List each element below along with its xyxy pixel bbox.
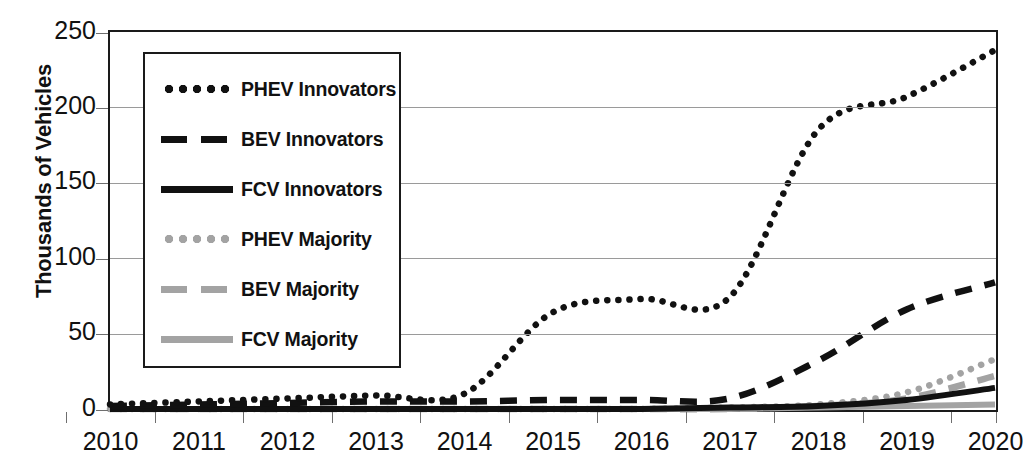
x-tick-label-2014: 2014	[437, 427, 493, 456]
legend-item-fcv-majority[interactable]: FCV Majority	[145, 314, 399, 364]
chart-legend: PHEV InnovatorsBEV InnovatorsFCV Innovat…	[143, 52, 401, 368]
legend-swatch-solid-dark-icon	[161, 182, 233, 196]
x-tick-mark-6	[597, 412, 598, 423]
legend-swatch-dotted-dark-icon	[161, 82, 233, 96]
x-tick-mark-1	[155, 412, 156, 423]
legend-swatch-solid-gray-icon	[161, 332, 233, 346]
y-tick-label-0: 0	[18, 395, 96, 420]
y-tick-mark-150	[96, 183, 108, 184]
x-tick-mark-9	[863, 412, 864, 423]
legend-label: FCV Majority	[241, 328, 358, 351]
x-tick-mark-8	[774, 412, 775, 423]
x-tick-mark-4	[420, 412, 421, 423]
y-axis-tick-labels: 250200150100500	[14, 0, 96, 472]
x-tick-label-2010: 2010	[83, 427, 139, 456]
legend-item-phev-majority[interactable]: PHEV Majority	[145, 214, 399, 264]
y-tick-mark-0	[96, 410, 108, 411]
y-tick-label-250: 250	[18, 18, 96, 43]
legend-swatch-dashed-gray-icon	[161, 282, 233, 296]
legend-item-bev-majority[interactable]: BEV Majority	[145, 264, 399, 314]
y-tick-mark-50	[96, 334, 108, 335]
legend-label: PHEV Innovators	[241, 78, 396, 101]
y-tick-mark-250	[96, 33, 108, 34]
legend-label: PHEV Majority	[241, 228, 372, 251]
x-tick-label-2020: 2020	[968, 427, 1023, 456]
x-tick-label-2013: 2013	[348, 427, 404, 456]
x-tick-mark-end	[996, 412, 997, 423]
x-tick-mark-2	[243, 412, 244, 423]
y-tick-mark-100	[96, 259, 108, 260]
legend-swatch-dotted-gray-icon	[161, 232, 233, 246]
legend-label: FCV Innovators	[241, 178, 382, 201]
x-tick-mark-0	[66, 412, 67, 423]
x-tick-mark-7	[686, 412, 687, 423]
y-tick-label-50: 50	[18, 319, 96, 344]
legend-swatch-dashed-dark-icon	[161, 132, 233, 146]
legend-label: BEV Innovators	[241, 128, 383, 151]
x-tick-label-2017: 2017	[702, 427, 758, 456]
x-tick-label-2011: 2011	[172, 427, 226, 456]
y-tick-label-150: 150	[18, 168, 96, 193]
legend-item-fcv-innovators[interactable]: FCV Innovators	[145, 164, 399, 214]
legend-item-bev-innovators[interactable]: BEV Innovators	[145, 114, 399, 164]
x-tick-label-2012: 2012	[260, 427, 316, 456]
legend-item-phev-innovators[interactable]: PHEV Innovators	[145, 64, 399, 114]
x-tick-label-2018: 2018	[791, 427, 847, 456]
x-tick-label-2015: 2015	[525, 427, 581, 456]
x-tick-mark-10	[951, 412, 952, 423]
x-tick-mark-3	[332, 412, 333, 423]
legend-label: BEV Majority	[241, 278, 359, 301]
y-tick-label-200: 200	[18, 93, 96, 118]
y-tick-label-100: 100	[18, 244, 96, 269]
y-tick-mark-200	[96, 108, 108, 109]
x-tick-mark-5	[509, 412, 510, 423]
x-tick-label-2019: 2019	[879, 427, 935, 456]
x-tick-label-2016: 2016	[614, 427, 670, 456]
